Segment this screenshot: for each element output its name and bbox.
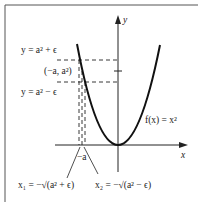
x2-label: x₂ = −√(a² − ϵ): [95, 180, 151, 191]
point-label: (−a, a²): [44, 66, 72, 77]
y-axis-label: y: [122, 15, 128, 25]
y-axis-arrow-icon: [115, 15, 121, 24]
parabola-epsilon-diagram: y = a² + ϵ (−a, a²) y = a² − ϵ f(x) = x²…: [0, 0, 199, 206]
neg-a-label: −a: [77, 152, 87, 162]
x-axis-arrow-icon: [179, 142, 188, 148]
lower-line-label: y = a² − ϵ: [21, 87, 57, 97]
upper-line-label: y = a² + ϵ: [21, 45, 57, 55]
function-label: f(x) = x²: [145, 115, 177, 126]
x-axis-label: x: [180, 150, 186, 160]
x1-label: x₁ = −√(a² + ϵ): [18, 180, 74, 191]
